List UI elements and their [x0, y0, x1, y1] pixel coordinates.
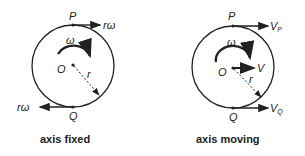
label-v: V	[257, 62, 266, 74]
label-top-velocity: rω	[103, 19, 116, 31]
diagram-axis-fixed: P rω ω O r rω Q axis fixed	[17, 10, 116, 145]
label-omega: ω	[66, 34, 75, 46]
label-omega: ω	[227, 36, 236, 48]
diagram-axis-moving: P VP ω O V r VQ Q axis moving	[192, 10, 283, 145]
label-vq: VQ	[270, 102, 283, 116]
rolling-wheel-diagrams: P rω ω O r rω Q axis fixed P VP ω O V r …	[0, 0, 305, 156]
label-o: O	[57, 63, 66, 75]
label-r: r	[87, 68, 92, 80]
label-q: Q	[69, 110, 78, 122]
label-o: O	[218, 66, 227, 78]
label-vp: VP	[270, 20, 282, 33]
rotation-arrow-icon	[58, 46, 90, 56]
label-p: P	[228, 10, 236, 22]
caption-axis-fixed: axis fixed	[40, 133, 90, 145]
label-p: P	[69, 10, 77, 22]
rotation-arrow-icon	[216, 46, 250, 62]
label-r: r	[249, 73, 254, 85]
caption-axis-moving: axis moving	[196, 133, 260, 145]
label-bottom-velocity: rω	[17, 101, 30, 113]
label-q: Q	[229, 111, 238, 123]
